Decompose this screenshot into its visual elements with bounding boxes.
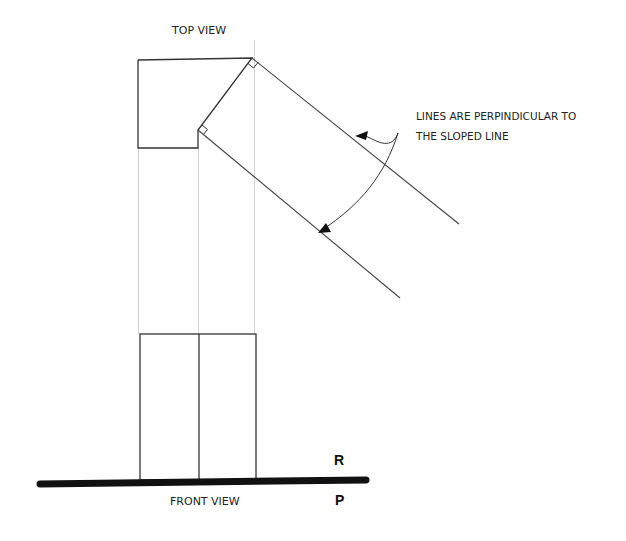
top-view-outline xyxy=(138,58,252,148)
leader-arc xyxy=(322,133,398,230)
plane-label-r: R xyxy=(334,452,344,468)
front-view-shape xyxy=(140,334,256,480)
perpendicular-line-lower xyxy=(198,130,400,298)
plane-label-p: P xyxy=(335,492,344,508)
orthographic-drawing xyxy=(0,0,626,541)
note-line-1: LINES ARE PERPINDICULAR TO xyxy=(416,106,576,126)
arrowheads xyxy=(318,131,368,233)
fold-line xyxy=(40,480,366,484)
right-angle-marker-upper xyxy=(248,63,258,69)
top-view-shape xyxy=(138,58,252,148)
top-view-label: TOP VIEW xyxy=(172,24,226,37)
projection-lines xyxy=(139,40,255,334)
note-line-2: THE SLOPED LINE xyxy=(416,126,509,146)
arrowhead-lower xyxy=(318,223,331,233)
perpendicular-lines xyxy=(198,58,459,298)
callout-arrows xyxy=(322,133,398,230)
front-view-label: FRONT VIEW xyxy=(170,495,240,508)
right-angle-markers xyxy=(202,63,258,136)
front-view-outline xyxy=(140,334,256,480)
arrowhead-upper xyxy=(355,131,368,140)
